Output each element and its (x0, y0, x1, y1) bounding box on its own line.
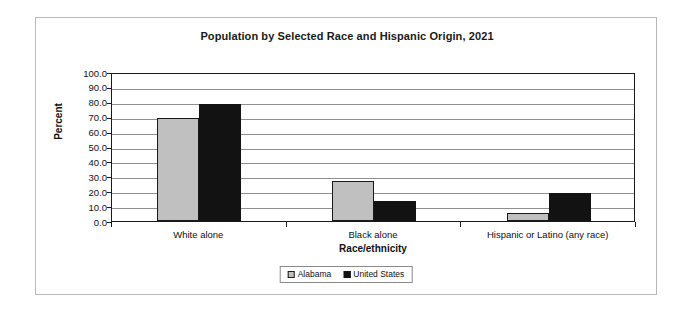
x-tick-mark (111, 222, 112, 227)
legend-item[interactable]: Alabama (288, 269, 332, 279)
bar (549, 193, 591, 221)
y-tick-mark (107, 177, 111, 178)
y-tick-mark (107, 88, 111, 89)
y-tick-label: 40.0 (64, 157, 107, 168)
y-tick-label: 90.0 (64, 82, 107, 93)
y-tick-label: 20.0 (64, 187, 107, 198)
y-axis-title: Percent (53, 72, 64, 172)
y-tick-mark (107, 148, 111, 149)
y-tick-label: 30.0 (64, 172, 107, 183)
y-axis-tick-labels: 100.090.080.070.060.050.040.030.020.010.… (64, 67, 107, 228)
legend-swatch-icon (343, 271, 350, 278)
y-tick-mark (107, 118, 111, 119)
y-tick-label: 80.0 (64, 97, 107, 108)
y-tick-mark (107, 192, 111, 193)
bar (332, 181, 374, 221)
x-tick-mark (635, 222, 636, 227)
bar (374, 201, 416, 221)
gridline (112, 89, 634, 90)
x-tick-mark (286, 222, 287, 227)
plot-area (111, 73, 635, 222)
bar (507, 213, 549, 221)
y-tick-label: 100.0 (64, 68, 107, 79)
chart-legend: AlabamaUnited States (280, 266, 413, 283)
x-tick-label: Hispanic or Latino (any race) (460, 229, 635, 240)
y-tick-label: 70.0 (64, 112, 107, 123)
legend-swatch-icon (288, 271, 295, 278)
legend-item-label: United States (353, 269, 404, 279)
y-tick-mark (107, 133, 111, 134)
y-tick-mark (107, 162, 111, 163)
legend-item-label: Alabama (298, 269, 332, 279)
bar (199, 104, 241, 221)
x-axis-title: Race/ethnicity (111, 243, 635, 254)
y-tick-label: 0.0 (64, 217, 107, 228)
x-tick-mark (460, 222, 461, 227)
bar (157, 118, 199, 221)
y-tick-label: 10.0 (64, 202, 107, 213)
y-tick-mark (107, 207, 111, 208)
y-tick-mark (107, 103, 111, 104)
chart-figure-frame: Population by Selected Race and Hispanic… (35, 17, 657, 295)
y-tick-label: 60.0 (64, 127, 107, 138)
x-tick-label: Black alone (286, 229, 461, 240)
y-tick-mark (107, 73, 111, 74)
chart-title: Population by Selected Race and Hispanic… (36, 30, 658, 42)
x-tick-label: White alone (111, 229, 286, 240)
legend-item[interactable]: United States (343, 269, 404, 279)
y-tick-label: 50.0 (64, 142, 107, 153)
gridline (112, 104, 634, 105)
